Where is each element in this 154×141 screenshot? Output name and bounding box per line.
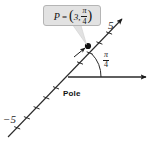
angle-label-numerator: π bbox=[103, 51, 109, 59]
close-paren: ) bbox=[87, 9, 92, 23]
angle-label: π 4 bbox=[103, 51, 109, 70]
angle-label-fraction: π 4 bbox=[103, 51, 109, 70]
callout-text: P = ( 3 , π 4 ) bbox=[44, 6, 102, 27]
callout-tail bbox=[72, 24, 87, 45]
angle-label-denominator: 4 bbox=[103, 61, 109, 69]
angle-arc bbox=[92, 54, 101, 77]
open-paren: ( bbox=[69, 9, 74, 23]
polar-coordinate-figure: P = ( 3 , π 4 ) 5 −5 Pole π 4 bbox=[0, 0, 154, 141]
axis-label-negative-five: −5 bbox=[3, 114, 16, 125]
pole-label: Pole bbox=[63, 90, 81, 98]
point-label-callout: P = ( 3 , π 4 ) bbox=[43, 5, 101, 26]
equals-sign: = bbox=[60, 12, 69, 22]
point-pointer-arrow bbox=[74, 48, 85, 57]
axis-label-positive-five: 5 bbox=[108, 20, 114, 31]
theta-axis-line bbox=[8, 19, 122, 137]
